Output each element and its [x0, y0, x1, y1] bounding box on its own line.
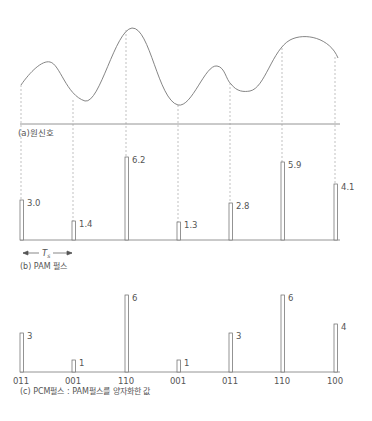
pam-pulse: 1.4	[72, 219, 93, 240]
pcm-pulse: 3011	[13, 331, 33, 386]
pam-pulse: 6.2	[125, 155, 146, 240]
panel-b-caption: (b) PAM 펄스	[20, 261, 67, 271]
pam-pulse: 1.3	[177, 220, 198, 240]
sampling-guides	[21, 30, 335, 240]
analog-signal-curve	[21, 28, 338, 105]
pam-value: 1.3	[184, 220, 198, 230]
pcm-pulse: 3011	[222, 331, 242, 386]
pcm-value: 3	[27, 331, 32, 341]
pcm-value: 1	[184, 358, 189, 368]
pam-value: 5.9	[288, 160, 302, 170]
pcm-code: 100	[327, 376, 343, 386]
pcm-value: 4	[341, 322, 346, 332]
pam-value: 1.4	[79, 219, 93, 229]
pcm-code: 110	[274, 376, 290, 386]
pcm-value: 6	[288, 293, 293, 303]
pcm-value: 3	[236, 331, 241, 341]
pcm-code: 011	[222, 376, 238, 386]
pam-value: 2.8	[236, 201, 250, 211]
pam-pulse: 2.8	[229, 201, 250, 240]
pcm-code: 110	[118, 376, 134, 386]
panel-a-original-signal: (a)원신호	[18, 28, 340, 240]
pam-pulse: 5.9	[281, 160, 302, 240]
pcm-value: 1	[79, 358, 84, 368]
panel-c-pcm-pulses: 3011100161101001301161104100	[13, 293, 347, 386]
pam-value: 4.1	[341, 182, 355, 192]
pam-value: 6.2	[132, 155, 146, 165]
pcm-code: 011	[13, 376, 29, 386]
pcm-code: 001	[65, 376, 81, 386]
pcm-pulse: 4100	[327, 322, 347, 386]
pam-pulse: 4.1	[334, 182, 355, 240]
pcm-code: 001	[170, 376, 186, 386]
pam-pulse: 3.0	[20, 198, 41, 240]
sampling-diagram: (a)원신호 3.01.46.21.32.85.94.1 Ts (b) PAM …	[0, 0, 372, 421]
pcm-value: 6	[132, 293, 137, 303]
pam-value: 3.0	[27, 198, 41, 208]
panel-a-caption: (a)원신호	[18, 128, 54, 138]
panel-c-caption: (c) PCM펄스 : PAM펄스를 양자화한 값	[20, 386, 151, 396]
panel-b-pam-pulses: 3.01.46.21.32.85.94.1	[20, 155, 355, 240]
